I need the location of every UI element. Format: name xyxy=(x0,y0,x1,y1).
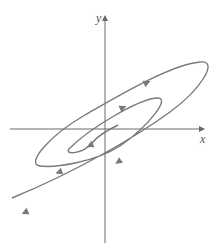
spiral-trajectory xyxy=(12,62,208,198)
x-axis-label: x xyxy=(200,132,205,147)
phase-portrait xyxy=(0,0,222,250)
arrow-icon xyxy=(20,208,29,217)
direction-arrows xyxy=(20,78,152,217)
y-axis-label: y xyxy=(96,11,101,26)
arrow-icon xyxy=(113,157,123,167)
